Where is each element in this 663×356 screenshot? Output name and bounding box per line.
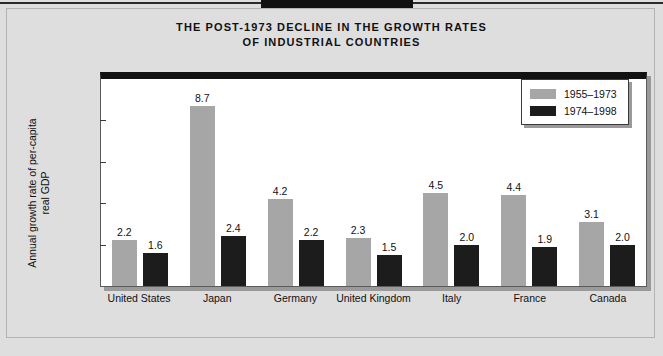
bar-value-label: 2.0: [615, 231, 630, 243]
legend-entry[interactable]: 1955–1973: [530, 85, 628, 102]
bar-value-label: 2.3: [351, 224, 366, 236]
bar[interactable]: 2.2: [299, 240, 324, 286]
x-axis-labels: United StatesJapanGermanyUnited KingdomI…: [100, 292, 647, 304]
legend-entry[interactable]: 1974–1998: [530, 102, 628, 119]
y-axis-label-line-1: Annual growth rate of per-capita: [26, 118, 38, 267]
y-axis-tick-mark: [100, 162, 106, 163]
bar[interactable]: 1.5: [377, 255, 402, 286]
bar[interactable]: 4.2: [268, 199, 293, 286]
bar-value-label: 4.2: [273, 185, 288, 197]
bar[interactable]: 2.4: [221, 236, 246, 286]
legend-label: 1955–1973: [564, 88, 617, 100]
bar[interactable]: 2.0: [610, 245, 635, 286]
x-axis-label: Japan: [178, 292, 256, 304]
bar[interactable]: 2.2: [112, 240, 137, 286]
x-axis-label: Germany: [256, 292, 334, 304]
bar-value-label: 1.9: [537, 233, 552, 245]
x-axis-label: United States: [100, 292, 178, 304]
y-axis-tick-mark: [100, 245, 106, 246]
chart-title-line-2: OF INDUSTRIAL COUNTRIES: [0, 35, 663, 50]
legend-swatch: [530, 89, 556, 99]
bar-value-label: 2.2: [304, 226, 319, 238]
x-axis-label: Canada: [569, 292, 647, 304]
x-axis-label: Italy: [413, 292, 491, 304]
bar[interactable]: 1.9: [532, 247, 557, 286]
bar[interactable]: 8.7: [190, 106, 215, 286]
bar-value-label: 1.5: [382, 241, 397, 253]
y-axis-tick-mark: [100, 120, 106, 121]
bar-group: 2.31.5: [335, 79, 413, 286]
bar[interactable]: 4.4: [501, 195, 526, 286]
x-axis-label: United Kingdom: [334, 292, 412, 304]
y-axis-label-line-2: real GDP: [39, 171, 51, 214]
legend-label: 1974–1998: [564, 105, 617, 117]
bar[interactable]: 2.0: [454, 245, 479, 286]
bar-value-label: 8.7: [195, 92, 210, 104]
bar[interactable]: 1.6: [143, 253, 168, 286]
bar-value-label: 4.5: [429, 179, 444, 191]
figure-page: THE POST-1973 DECLINE IN THE GROWTH RATE…: [0, 0, 663, 356]
bar-value-label: 1.6: [148, 239, 163, 251]
bar-group: 4.22.2: [257, 79, 335, 286]
bar-value-label: 2.4: [226, 222, 241, 234]
legend-swatch: [530, 106, 556, 116]
bar[interactable]: 4.5: [423, 193, 448, 286]
x-axis-label: France: [491, 292, 569, 304]
bar-value-label: 3.1: [584, 208, 599, 220]
bar-value-label: 2.2: [117, 226, 132, 238]
bar-group: 4.52.0: [412, 79, 490, 286]
y-axis-label: Annual growth rate of per-capita real GD…: [26, 93, 52, 293]
bar[interactable]: 3.1: [579, 222, 604, 286]
y-axis-tick-mark: [100, 203, 106, 204]
bar-value-label: 4.4: [506, 181, 521, 193]
chart-legend: 1955–19731974–1998: [521, 79, 629, 125]
chart-title-line-1: THE POST-1973 DECLINE IN THE GROWTH RATE…: [0, 20, 663, 35]
chart-title: THE POST-1973 DECLINE IN THE GROWTH RATE…: [0, 20, 663, 50]
bar-value-label: 2.0: [460, 231, 475, 243]
bar[interactable]: 2.3: [346, 238, 371, 286]
bar-group: 8.72.4: [179, 79, 257, 286]
bar-group: 2.21.6: [101, 79, 179, 286]
